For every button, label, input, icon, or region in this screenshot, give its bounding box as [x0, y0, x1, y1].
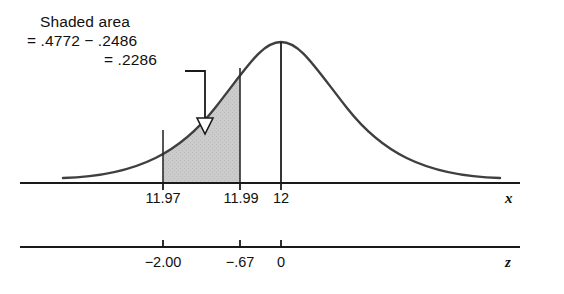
x-tick-label-11-97: 11.97	[127, 190, 199, 206]
shaded-area-annotation-line-1: Shaded area	[40, 12, 130, 31]
z-tick-label-minus-067: −.67	[208, 254, 272, 270]
shaded-area-annotation-line-3: = .2286	[104, 50, 157, 69]
annotation-leader-line	[185, 71, 205, 118]
normal-distribution-figure: Shaded area = .4772 − .2486 = .2286 11.9…	[0, 0, 564, 294]
x-axis-label: x	[505, 190, 513, 207]
z-tick-label-0: 0	[266, 254, 296, 270]
shaded-area-annotation-line-2: = .4772 − .2486	[27, 31, 137, 50]
z-axis-label: z	[505, 254, 511, 271]
z-tick-label-minus-2: −2.00	[127, 254, 199, 270]
x-tick-label-12: 12	[265, 190, 297, 206]
